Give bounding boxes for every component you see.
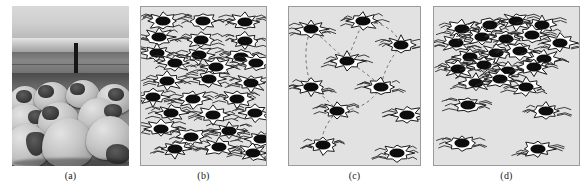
wool-wisp bbox=[212, 34, 222, 36]
panel-c-sparse-network-schematic: (c) bbox=[288, 6, 421, 166]
sheep-icon bbox=[375, 35, 420, 53]
sheep-head bbox=[492, 74, 507, 83]
sheep-head bbox=[393, 40, 408, 49]
wool-wisp bbox=[442, 109, 456, 111]
sheep-head bbox=[211, 142, 226, 151]
sheep-head bbox=[534, 20, 549, 29]
wool-wisp bbox=[225, 85, 240, 87]
wool-wisp bbox=[189, 117, 202, 119]
photo-sheep-head bbox=[70, 83, 85, 95]
sheep-icon bbox=[341, 12, 390, 31]
wool-wisp bbox=[215, 51, 230, 53]
sheep-icon bbox=[175, 32, 224, 47]
wool-wisp bbox=[501, 28, 508, 30]
wool-wisp bbox=[501, 90, 515, 92]
sheep-group-c bbox=[289, 12, 420, 163]
sheep-icon bbox=[222, 31, 266, 49]
wool-wisp bbox=[527, 105, 535, 107]
wool-wisp bbox=[224, 119, 238, 121]
wool-wisp bbox=[344, 16, 352, 18]
wool-wisp bbox=[293, 80, 300, 82]
sheep-icon bbox=[301, 137, 345, 155]
sheep-icon bbox=[289, 78, 336, 97]
wool-wisp bbox=[220, 82, 229, 84]
sheep-head bbox=[474, 32, 489, 41]
sheep-icon bbox=[235, 131, 266, 146]
panel-b-svg bbox=[141, 7, 266, 165]
panel-d-svg bbox=[434, 7, 579, 165]
wool-wisp bbox=[436, 32, 451, 34]
sheep-head bbox=[315, 140, 330, 149]
sheep-head bbox=[191, 50, 206, 59]
sheep-head bbox=[163, 108, 178, 117]
sheep-head bbox=[552, 38, 567, 47]
wool-wisp bbox=[553, 18, 566, 20]
wool-wisp bbox=[227, 155, 242, 157]
panel-d-clustered-schematic: (d) bbox=[433, 6, 580, 166]
wool-wisp bbox=[210, 48, 223, 50]
wool-wisp bbox=[176, 50, 187, 52]
figure-root: (a) (b) (c) (d) bbox=[0, 0, 588, 192]
wool-wisp bbox=[169, 94, 182, 96]
sheep-icon bbox=[193, 137, 243, 154]
wool-wisp bbox=[553, 29, 561, 31]
sheep-head bbox=[208, 62, 223, 71]
wool-wisp bbox=[256, 15, 265, 17]
wool-wisp bbox=[164, 91, 175, 93]
sheep-head bbox=[245, 148, 260, 157]
wool-wisp bbox=[553, 21, 566, 23]
sheep-icon bbox=[372, 145, 418, 162]
sheep-icon bbox=[150, 142, 200, 159]
wool-wisp bbox=[182, 107, 191, 109]
sheep-icon bbox=[142, 71, 191, 91]
sheep-icon bbox=[289, 20, 336, 38]
wool-wisp bbox=[256, 45, 266, 47]
sheep-head bbox=[482, 20, 497, 29]
wool-wisp bbox=[147, 75, 156, 77]
wool-wisp bbox=[375, 148, 386, 150]
panel-d-canvas bbox=[433, 6, 580, 166]
wool-wisp bbox=[256, 19, 266, 21]
wool-wisp bbox=[174, 25, 182, 27]
sheep-head bbox=[339, 56, 354, 65]
wool-wisp bbox=[168, 102, 182, 104]
wool-wisp bbox=[141, 91, 142, 93]
sheep-head bbox=[145, 92, 160, 101]
sheep-head bbox=[155, 16, 170, 25]
wool-wisp bbox=[264, 156, 266, 158]
sheep-head bbox=[151, 32, 166, 41]
sheep-head bbox=[355, 16, 370, 25]
sheep-icon bbox=[225, 76, 266, 93]
photo-ground-shadow bbox=[12, 158, 129, 166]
photo-sheep-head bbox=[42, 106, 59, 120]
wool-wisp bbox=[450, 87, 465, 89]
wool-wisp bbox=[146, 116, 160, 118]
sheep-icon bbox=[168, 91, 218, 109]
wool-wisp bbox=[182, 34, 190, 36]
sheep-head bbox=[389, 148, 404, 157]
sheep-head bbox=[229, 94, 244, 103]
wool-wisp bbox=[230, 150, 242, 152]
wool-wisp bbox=[412, 39, 420, 41]
sheep-head bbox=[183, 132, 198, 141]
sheep-head bbox=[185, 94, 200, 103]
sheep-head bbox=[460, 100, 475, 109]
wool-wisp bbox=[537, 91, 546, 93]
wool-wisp bbox=[327, 57, 336, 59]
panel-c-svg bbox=[289, 7, 420, 165]
photo-sheep-head bbox=[108, 88, 124, 101]
panel-a-caption: (a) bbox=[12, 170, 129, 181]
sheep-head bbox=[167, 144, 182, 153]
sheep-icon bbox=[141, 119, 186, 137]
wool-wisp bbox=[439, 146, 451, 148]
wool-wisp bbox=[557, 107, 571, 109]
sheep-icon bbox=[141, 12, 189, 29]
wool-wisp bbox=[382, 111, 396, 113]
sheep-head bbox=[399, 110, 414, 119]
sheep-head bbox=[167, 58, 182, 67]
sheep-head bbox=[454, 138, 469, 147]
sheep-head bbox=[373, 82, 388, 91]
wool-wisp bbox=[212, 43, 224, 45]
sheep-icon bbox=[382, 107, 420, 124]
wool-wisp bbox=[321, 65, 336, 67]
